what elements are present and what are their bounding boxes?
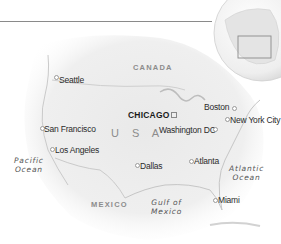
city-label-miami: Miami [218, 195, 240, 205]
country-label-usa: U S A [111, 127, 164, 139]
water-label-atlantic: Atlantic Ocean [229, 164, 264, 182]
chicago-square-marker-icon [171, 112, 177, 118]
city-label-san-francisco: San Francisco [44, 124, 96, 134]
city-marker-icon [213, 127, 218, 132]
header-rule [0, 21, 212, 22]
city-label-new-york-city: New York City [230, 115, 280, 125]
city-label-boston: Boston [204, 102, 229, 112]
water-label-gulf-of-mexico: Gulf of Mexico [151, 198, 182, 216]
water-label-pacific: Pacific Ocean [14, 156, 44, 174]
city-label-chicago: CHICAGO [128, 110, 170, 120]
caribbean [210, 223, 260, 226]
city-label-dallas: Dallas [140, 161, 162, 171]
city-label-washington-dc: Washington DC [159, 125, 216, 135]
city-label-los-angeles: Los Angeles [55, 145, 99, 155]
map-canvas: CANADA U S A MEXICO Pacific Ocean Atlant… [0, 0, 281, 244]
country-label-canada: CANADA [133, 63, 173, 72]
city-marker-icon [232, 106, 237, 111]
country-label-mexico: MEXICO [91, 200, 128, 209]
city-label-atlanta: Atlanta [194, 156, 219, 166]
city-label-seattle: Seattle [59, 75, 84, 85]
